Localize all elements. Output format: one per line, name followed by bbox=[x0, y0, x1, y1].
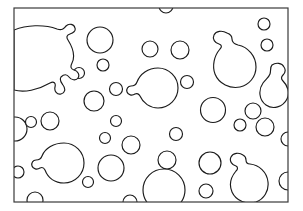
bubble-right-edge-small bbox=[256, 118, 274, 136]
bubble-mid-lower-tiny-2 bbox=[100, 133, 111, 144]
artwork-canvas bbox=[0, 0, 303, 211]
bubble-lower-center-small bbox=[158, 151, 176, 169]
bubbles-illustration bbox=[0, 0, 303, 211]
bubble-upper-mid-right-small bbox=[171, 41, 189, 59]
bubble-right-small bbox=[245, 103, 261, 119]
bubble-mid-small bbox=[110, 83, 123, 96]
bubble-right-medium bbox=[201, 98, 226, 123]
bubble-center-right-small bbox=[181, 76, 194, 89]
bubble-upper-left-medium bbox=[87, 27, 113, 53]
bubble-center-small bbox=[170, 128, 183, 141]
bubble-mid-lower-small bbox=[122, 136, 140, 154]
bubble-left-lower-medium bbox=[84, 91, 104, 111]
bubble-lower-right-medium bbox=[199, 152, 221, 174]
bubble-mid-lower-tiny bbox=[111, 116, 122, 127]
bubble-upper-mid-small bbox=[142, 41, 158, 57]
bubble-lower-center-tiny bbox=[83, 177, 94, 188]
bubble-lower-right-tiny bbox=[199, 184, 213, 198]
bubble-left-mid-small bbox=[97, 59, 109, 71]
bubble-upper-right-tiny-2 bbox=[261, 39, 273, 51]
bubble-lower-mid-medium bbox=[98, 155, 124, 181]
bubble-upper-right-tiny bbox=[258, 18, 270, 30]
bubble-left-tiny bbox=[26, 117, 37, 128]
bubble-right-mid-tiny bbox=[234, 119, 246, 131]
bubble-left-small bbox=[41, 112, 59, 130]
